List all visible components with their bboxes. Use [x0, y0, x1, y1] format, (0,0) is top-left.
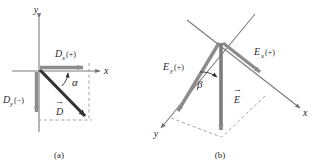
- panel-a-y-axis-label: y: [33, 4, 39, 15]
- panel-b-label-Ex: E x (+): [253, 46, 275, 60]
- panel-b-x-axis: [187, 20, 300, 108]
- panel-a-label-Dx: D x (+): [54, 48, 76, 62]
- panel-b-y-axis-label: y: [153, 128, 159, 139]
- panel-b-label-Ey-base: E: [162, 61, 169, 72]
- panel-b-label-E-base: E: [233, 94, 240, 105]
- panel-a-caption: (a): [54, 150, 64, 160]
- panel-a: y x D x (+) D y (−) → D α (a): [2, 4, 109, 160]
- panel-b: y x E x (+) E y (+) → E β (b): [153, 14, 308, 160]
- panel-b-label-E-arrowbar: →: [233, 84, 242, 94]
- panel-b-x-axis-label: x: [302, 107, 308, 118]
- panel-b-label-Ex-base: E: [253, 46, 260, 57]
- panel-b-dashed-left: [171, 118, 221, 137]
- panel-b-label-E: → E: [233, 84, 242, 105]
- panel-a-label-D-arrowbar: →: [55, 96, 64, 106]
- panel-b-caption: (b): [215, 150, 226, 160]
- panel-a-angle-arc-alpha: [62, 73, 68, 86]
- figure-root: y x D x (+) D y (−) → D α (a): [0, 0, 316, 168]
- vector-diagram-svg: y x D x (+) D y (−) → D α (a): [0, 0, 316, 168]
- panel-a-label-D: → D: [55, 96, 64, 117]
- panel-a-x-axis-label: x: [103, 65, 109, 76]
- panel-b-vector-Ey: [178, 43, 219, 111]
- panel-b-label-Ex-sign: (+): [265, 48, 275, 57]
- panel-b-label-Ey: E y (+): [162, 61, 184, 75]
- panel-b-dashed-right: [222, 96, 265, 137]
- panel-a-angle-label-alpha: α: [72, 76, 78, 88]
- panel-a-label-Dx-sign: (+): [66, 50, 76, 59]
- panel-b-label-Ey-sign: (+): [174, 63, 184, 72]
- panel-a-label-D-base: D: [55, 106, 64, 117]
- panel-a-label-Dy: D y (−): [2, 94, 24, 108]
- panel-b-angle-label-beta: β: [196, 78, 203, 90]
- panel-a-label-Dy-sign: (−): [14, 96, 24, 105]
